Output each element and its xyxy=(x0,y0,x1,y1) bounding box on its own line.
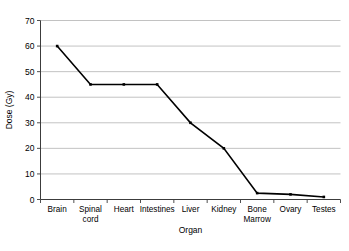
x-category-label: cord xyxy=(83,215,99,224)
y-tick-label: 20 xyxy=(25,143,35,153)
y-tick-label: 70 xyxy=(25,16,35,26)
data-point-marker xyxy=(323,196,326,199)
y-axis-title: Dose (Gy) xyxy=(4,90,14,129)
data-point-marker xyxy=(56,45,59,48)
data-point-marker xyxy=(123,83,126,86)
y-tick-label: 60 xyxy=(25,41,35,51)
x-category-label: Testes xyxy=(312,205,336,214)
line-chart: 010203040506070 BrainSpinalcordHeartInte… xyxy=(0,0,349,251)
x-category-label: Kidney xyxy=(211,205,237,214)
y-tick-label: 10 xyxy=(25,169,35,179)
x-category-label: Heart xyxy=(114,205,135,214)
y-tick-label: 50 xyxy=(25,67,35,77)
y-tick-label: 30 xyxy=(25,118,35,128)
x-category-label: Brain xyxy=(48,205,68,214)
x-category-label: Ovary xyxy=(280,205,303,214)
x-axis-title: Organ xyxy=(179,225,203,235)
x-category-label: Intestines xyxy=(140,205,175,214)
chart-canvas: 010203040506070 BrainSpinalcordHeartInte… xyxy=(0,0,349,251)
y-tick-label: 0 xyxy=(30,195,35,205)
y-tick-label: 40 xyxy=(25,92,35,102)
data-point-marker xyxy=(256,192,259,195)
data-point-marker xyxy=(223,147,226,150)
x-category-label: Marrow xyxy=(244,215,271,224)
data-point-marker xyxy=(289,193,292,196)
data-point-marker xyxy=(89,83,92,86)
x-category-label: Bone xyxy=(248,205,268,214)
x-category-label: Spinal xyxy=(79,205,102,214)
data-point-marker xyxy=(189,121,192,124)
data-point-marker xyxy=(156,83,159,86)
x-category-label: Liver xyxy=(182,205,200,214)
